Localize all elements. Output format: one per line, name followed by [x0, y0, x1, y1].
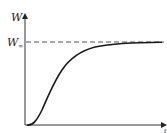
- y-axis-label: W: [11, 11, 24, 24]
- asymptote-label: W∞: [7, 36, 23, 49]
- growth-curve-diagram: W W∞ t: [0, 0, 167, 133]
- growth-curve: [27, 42, 162, 125]
- x-axis-label: t: [164, 127, 167, 133]
